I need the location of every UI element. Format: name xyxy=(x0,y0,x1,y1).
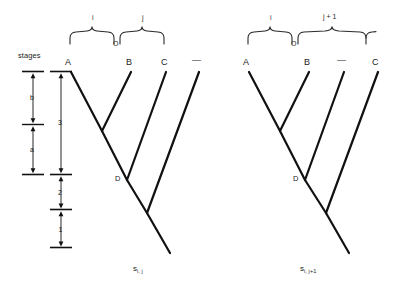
tree-right-brace-label-i: i xyxy=(270,14,272,21)
tree-right-brace-join-label: O xyxy=(291,40,296,47)
tree-right-leaf-c: C xyxy=(372,58,379,67)
tree-left-brace-label-j: j xyxy=(142,14,144,21)
tree-left-leaf-b: B xyxy=(126,58,132,67)
scale-segment-label-a: a xyxy=(30,146,34,153)
tree-left-caption: si, j xyxy=(133,265,143,275)
tree-right-leaf-a: A xyxy=(243,58,249,67)
tree-right-caption: si, j+1 xyxy=(300,265,316,275)
tree-right-braces xyxy=(248,27,376,45)
phylogenetic-tree-figure: stages b a 3 2 1 i j O A B C — D si, j i… xyxy=(0,0,401,298)
tree-left-leaf-a: A xyxy=(65,58,71,67)
scale-inner-column xyxy=(22,72,44,175)
tree-left-brace-join-label: O xyxy=(113,40,118,47)
tree-right-leaf-b: B xyxy=(304,58,310,67)
scale-stage-label-2: 2 xyxy=(58,189,62,196)
tree-right-leaf-gap: — xyxy=(337,56,346,65)
tree-left-node-d: D xyxy=(115,175,120,183)
tree-left-caption-subscript: i, j xyxy=(137,268,143,274)
scale-title: stages xyxy=(18,52,41,60)
tree-right-caption-subscript: i, j+1 xyxy=(304,268,316,274)
tree-right-brace-label-j-plus-1: j + 1 xyxy=(323,13,336,20)
scale-segment-label-b: b xyxy=(30,94,34,101)
tree-left-branches xyxy=(71,72,199,253)
scale-stage-label-1: 1 xyxy=(59,226,63,233)
tree-right-branches xyxy=(249,72,378,253)
scale-outer-column xyxy=(50,72,72,248)
figure-line-art xyxy=(0,0,401,298)
tree-left-brace-label-i: i xyxy=(92,14,94,21)
scale-stage-label-3: 3 xyxy=(58,119,62,126)
tree-right-node-d: D xyxy=(293,175,298,183)
tree-left-leaf-gap: — xyxy=(192,56,201,65)
tree-left-leaf-c: C xyxy=(161,58,168,67)
